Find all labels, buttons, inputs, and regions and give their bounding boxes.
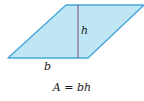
area-formula: A = bh [0,81,144,94]
formula-equals: = [64,81,73,94]
parallelogram-shape [8,5,144,58]
formula-rhs: bh [77,81,91,94]
base-label: b [44,60,51,73]
formula-lhs: A [53,81,61,94]
height-label: h [81,24,88,37]
